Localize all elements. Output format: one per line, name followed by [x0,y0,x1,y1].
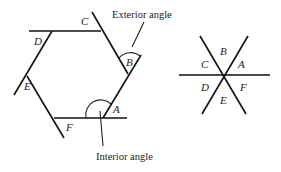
angle-label-e: E [219,94,227,106]
hexagon-label-e: E [23,80,31,92]
hexagon-lower-left-edge-extended [27,76,64,138]
hexagon-label-a: A [112,103,120,115]
hexagon-label-c: C [81,15,89,27]
angle-label-f: F [239,81,247,93]
hexagon-label-f: F [65,121,73,133]
hexagon-figure: C D E F A B Exterior angle Interior angl… [14,9,172,162]
angle-label-a: A [237,58,245,70]
angle-label-c: C [201,58,209,70]
hexagon-label-d: D [33,35,42,47]
intersecting-lines-figure: B C A D F E [179,36,270,114]
hexagon-upper-right-edge-extended [92,12,128,74]
interior-angle-pointer [100,111,103,146]
interior-angle-arc [86,100,111,118]
diagram-canvas: C D E F A B Exterior angle Interior angl… [0,0,281,172]
exterior-angle-caption: Exterior angle [112,9,172,20]
hexagon-label-b: B [126,56,133,68]
exterior-angle-pointer [132,22,144,47]
angle-label-b: B [220,45,227,57]
angle-label-d: D [200,81,209,93]
interior-angle-caption: Interior angle [96,151,153,162]
